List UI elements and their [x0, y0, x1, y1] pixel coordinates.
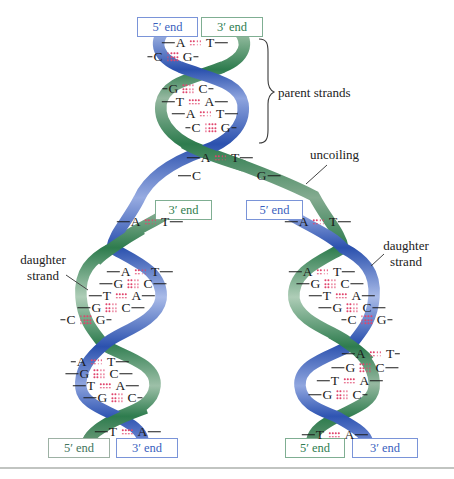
backbone-dash	[154, 283, 167, 284]
hydrogen-bond-dots	[188, 99, 200, 106]
base-letter: A	[356, 347, 366, 361]
backbone-dash	[302, 434, 315, 435]
base-letter: A	[176, 36, 186, 50]
backbone-dash	[132, 307, 145, 308]
backbone-dash	[65, 373, 78, 374]
base-letter: T	[386, 347, 394, 361]
base-letter: G	[322, 388, 332, 402]
base-pair-CG: CG	[341, 313, 392, 327]
backbone-dash	[126, 385, 139, 386]
backbone-dash	[386, 367, 399, 368]
base-letter: T	[316, 428, 324, 442]
backbone-dash	[172, 113, 185, 114]
hydrogen-bond-dots	[317, 269, 329, 276]
base-letter: A	[131, 215, 141, 229]
backbone-dash	[363, 394, 368, 395]
backbone-dash	[73, 385, 86, 386]
hydrogen-bond-dots	[145, 219, 157, 226]
backbone-dash	[71, 361, 76, 362]
base-letter: G	[221, 121, 231, 135]
daughter-strand-label-left-line2: strand	[14, 268, 72, 284]
backbone-dash	[117, 221, 130, 222]
daughter-strand-label-left-line1: daughter	[14, 252, 72, 268]
backbone-dash	[162, 42, 175, 43]
end-box-top-5prime: 5′ end	[137, 17, 198, 37]
hydrogen-bond-dots	[99, 383, 111, 390]
backbone-dash	[289, 271, 302, 272]
hydrogen-bond-dots	[360, 315, 372, 325]
backbone-dash	[187, 157, 200, 158]
hydrogen-bond-dots	[370, 351, 382, 358]
hydrogen-bond-dots	[135, 269, 147, 276]
base-letter: C	[153, 50, 162, 64]
backbone-dash	[147, 56, 152, 57]
backbone-dash	[185, 127, 190, 128]
base-letter: G	[257, 169, 267, 183]
hydrogen-bond-dots	[105, 303, 117, 313]
hydrogen-bond-dots	[79, 315, 91, 325]
backbone-dash	[370, 380, 383, 381]
base-pair-TA: TA	[302, 428, 368, 442]
base-letter: G	[345, 361, 355, 375]
base-letter: A	[186, 107, 196, 121]
base-pair-CG: CG	[60, 313, 111, 327]
parent-strands-label: parent strands	[278, 85, 351, 101]
base-letter: C	[66, 313, 75, 327]
daughter-strand-label-left: daughter strand	[14, 252, 72, 284]
base-letter: T	[109, 425, 117, 439]
base-letter: T	[231, 151, 239, 165]
backbone-dash	[83, 397, 96, 398]
backbone-dash	[89, 295, 102, 296]
hydrogen-bond-dots	[121, 429, 133, 436]
daughter-strand-label-right-line2: strand	[379, 254, 433, 270]
base-letter: A	[137, 425, 147, 439]
base-pair-AT: AT	[285, 215, 351, 229]
backbone-dash	[99, 283, 112, 284]
hydrogen-bond-dots	[313, 219, 325, 226]
backbone-dash	[225, 113, 238, 114]
backbone-dash	[120, 373, 133, 374]
backbone-dash	[342, 353, 355, 354]
backbone-dash	[215, 42, 228, 43]
end-box-top-3prime: 3′ end	[201, 17, 263, 37]
base-letter: A	[344, 428, 354, 442]
base-letter: A	[299, 215, 309, 229]
backbone-dash	[162, 88, 167, 89]
base-letter: G	[183, 50, 193, 64]
backbone-dash	[267, 175, 280, 176]
parent-strands-brace	[259, 39, 274, 143]
backbone-dash	[148, 431, 161, 432]
hydrogen-bond-dots	[91, 359, 103, 366]
base-letter: T	[216, 107, 224, 121]
backbone-dash	[215, 101, 228, 102]
base-letter: A	[201, 151, 211, 165]
base-letter: C	[376, 361, 385, 375]
hydrogen-bond-dots	[190, 40, 202, 47]
backbone-dash	[162, 101, 175, 102]
backbone-dash	[351, 283, 364, 284]
backbone-dash	[341, 319, 346, 320]
backbone-dash	[342, 271, 355, 272]
base-letter: G	[377, 313, 387, 327]
hydrogen-bond-dots	[336, 390, 348, 400]
backbone-dash	[194, 56, 199, 57]
base-letter: C	[128, 391, 137, 405]
backbone-dash	[308, 394, 321, 395]
backbone-dash	[142, 295, 155, 296]
backbone-dash	[209, 88, 214, 89]
hydrogen-bond-dots	[182, 84, 194, 94]
uncoiling-pointer-line	[306, 165, 327, 184]
backbone-dash	[331, 367, 344, 368]
backbone-dash	[285, 221, 298, 222]
hydrogen-bond-dots	[111, 393, 123, 403]
base-pair-AT: AT	[162, 36, 228, 50]
base-letter: C	[122, 301, 131, 315]
backbone-dash	[317, 380, 330, 381]
uncoiling-label: uncoiling	[310, 147, 359, 163]
base-pair-AT: AT	[172, 107, 238, 121]
backbone-dash	[77, 307, 90, 308]
backbone-dash	[178, 175, 191, 176]
backbone-dash	[107, 271, 120, 272]
base-pair-TA: TA	[317, 374, 383, 388]
hydrogen-bond-dots	[215, 155, 227, 162]
